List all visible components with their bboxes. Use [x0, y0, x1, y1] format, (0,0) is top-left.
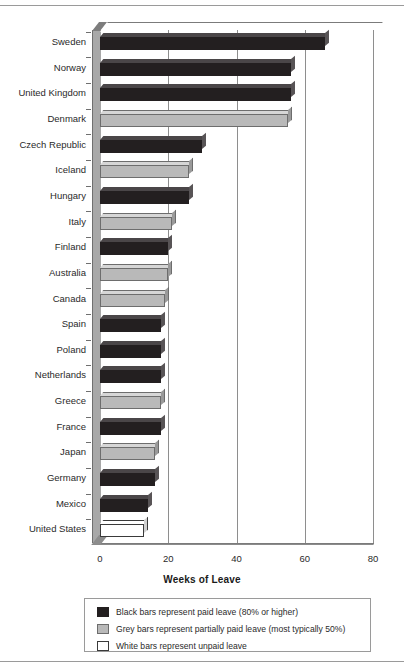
bar-side3d [161, 337, 165, 353]
bar-face [100, 242, 168, 255]
bar-side3d [172, 209, 176, 225]
bar-face [100, 370, 161, 383]
bar-row: Italy [0, 210, 404, 237]
bar-italy[interactable] [100, 217, 172, 230]
x-tick-label-40: 40 [222, 553, 252, 564]
y-axis-label-netherlands: Netherlands [0, 369, 86, 380]
bar-side3d [189, 184, 193, 200]
bar-side3d [155, 466, 159, 482]
bar-face [100, 217, 172, 230]
y-axis-tick [86, 391, 91, 392]
bar-row: Mexico [0, 492, 404, 519]
bar-face [100, 473, 155, 486]
bar-australia[interactable] [100, 268, 168, 281]
bar-side3d [148, 491, 152, 507]
x-tick-label-0: 0 [85, 553, 115, 564]
horizontal-bar-chart: SwedenNorwayUnited KingdomDenmarkCzech R… [0, 8, 404, 560]
bar-side3d [161, 389, 165, 405]
y-axis-tick [86, 109, 91, 110]
legend-swatch-black [97, 607, 109, 617]
bar-netherlands[interactable] [100, 370, 161, 383]
bar-face [100, 499, 148, 512]
y-axis-label-germany: Germany [0, 472, 86, 483]
y-axis-tick [86, 263, 91, 264]
x-axis-ticks: 020406080 [0, 553, 404, 569]
plot-floor-front [85, 544, 374, 553]
x-axis-title: Weeks of Leave [0, 574, 404, 585]
y-axis-tick [86, 134, 91, 135]
bar-japan[interactable] [100, 447, 155, 460]
y-axis-tick [86, 442, 91, 443]
bar-side3d [288, 107, 292, 123]
bar-greece[interactable] [100, 396, 161, 409]
y-axis-tick [86, 519, 91, 520]
y-axis-tick [86, 237, 91, 238]
bar-row: Japan [0, 440, 404, 467]
y-axis-label-japan: Japan [0, 446, 86, 457]
bar-side3d [155, 440, 159, 456]
legend-label-white: White bars represent unpaid leave [116, 641, 247, 651]
bar-side3d [161, 414, 165, 430]
bar-czech-republic[interactable] [100, 140, 202, 153]
bar-mexico[interactable] [100, 499, 148, 512]
legend-swatch-white [97, 641, 109, 651]
bar-face [100, 345, 161, 358]
bar-side3d [161, 312, 165, 328]
bar-face [100, 88, 291, 101]
legend-item-white: White bars represent unpaid leave [97, 638, 370, 653]
bottom-divider-rule [0, 661, 404, 662]
bar-united-states[interactable] [100, 524, 144, 537]
y-axis-label-france: France [0, 421, 86, 432]
bar-row: Netherlands [0, 363, 404, 390]
y-axis-tick [86, 160, 91, 161]
bar-row: Sweden [0, 30, 404, 57]
bar-spain[interactable] [100, 319, 161, 332]
y-axis-label-iceland: Iceland [0, 164, 86, 175]
bar-row: Iceland [0, 158, 404, 185]
y-axis-label-hungary: Hungary [0, 190, 86, 201]
legend-label-black: Black bars represent paid leave (80% or … [116, 607, 298, 617]
bar-side3d [202, 132, 206, 148]
bar-france[interactable] [100, 422, 161, 435]
bar-side3d [165, 286, 169, 302]
bar-side3d [291, 81, 295, 97]
bar-side3d [144, 517, 148, 533]
x-tick-label-80: 80 [358, 553, 388, 564]
bar-united-kingdom[interactable] [100, 88, 291, 101]
bar-iceland[interactable] [100, 165, 189, 178]
bar-row: France [0, 415, 404, 442]
legend-swatch-grey [97, 624, 109, 634]
bar-finland[interactable] [100, 242, 168, 255]
y-axis-tick [86, 365, 91, 366]
y-axis-label-united-states: United States [0, 523, 86, 534]
legend-label-grey: Grey bars represent partially paid leave… [116, 624, 345, 634]
bar-face [100, 524, 144, 537]
bar-germany[interactable] [100, 473, 155, 486]
bar-face [100, 447, 155, 460]
y-axis-tick [86, 494, 91, 495]
bar-face [100, 140, 202, 153]
bar-side3d [161, 363, 165, 379]
bar-side3d [189, 158, 193, 174]
bar-poland[interactable] [100, 345, 161, 358]
y-axis-tick [86, 314, 91, 315]
bar-row: United Kingdom [0, 81, 404, 108]
bar-hungary[interactable] [100, 191, 189, 204]
y-axis-label-spain: Spain [0, 318, 86, 329]
bar-norway[interactable] [100, 63, 291, 76]
bar-face [100, 319, 161, 332]
chart-legend: Black bars represent paid leave (80% or … [84, 598, 371, 652]
bar-side3d [168, 235, 172, 251]
bar-face [100, 63, 291, 76]
bar-row: Australia [0, 261, 404, 288]
bar-canada[interactable] [100, 294, 165, 307]
y-axis-label-finland: Finland [0, 241, 86, 252]
bar-denmark[interactable] [100, 114, 288, 127]
bar-face [100, 294, 165, 307]
y-axis-tick [86, 32, 91, 33]
bar-sweden[interactable] [100, 37, 325, 50]
bar-row: Czech Republic [0, 133, 404, 160]
bar-row: Hungary [0, 184, 404, 211]
legend-item-black: Black bars represent paid leave (80% or … [97, 604, 370, 619]
y-axis-label-australia: Australia [0, 267, 86, 278]
